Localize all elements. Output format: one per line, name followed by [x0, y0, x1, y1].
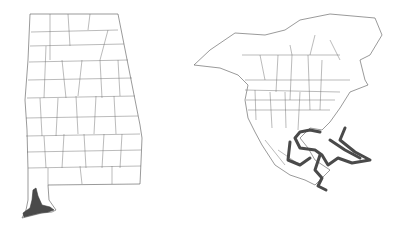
alabama-county-map — [0, 0, 200, 226]
alabama-outline — [22, 14, 142, 218]
north-america-map — [190, 0, 398, 226]
